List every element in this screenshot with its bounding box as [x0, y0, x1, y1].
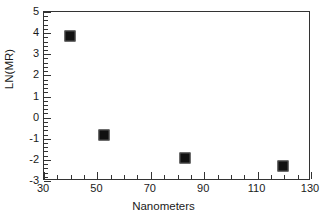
- y-tick-minor: [44, 122, 48, 123]
- x-tick-minor: [271, 175, 272, 179]
- x-tick-minor: [298, 175, 299, 179]
- y-tick-major: [44, 75, 51, 76]
- y-tick-minor: [44, 58, 48, 59]
- y-tick-minor: [44, 46, 48, 47]
- chart-figure: 30507090110130 -3-2-1012345 Nanometers L…: [0, 0, 327, 221]
- y-tick-minor: [44, 25, 48, 26]
- y-tick-label: -1: [29, 132, 39, 143]
- y-tick-label: 3: [33, 48, 39, 59]
- y-tick-major: [44, 97, 51, 98]
- y-tick-minor: [44, 88, 48, 89]
- y-tick-major: [44, 33, 51, 34]
- x-tick-minor: [137, 175, 138, 179]
- y-tick-minor: [44, 29, 48, 30]
- x-tick-major: [97, 172, 98, 179]
- y-tick-minor: [44, 20, 48, 21]
- data-point-marker: [64, 31, 75, 42]
- x-axis-title: Nanometers: [0, 200, 327, 212]
- y-tick-minor: [44, 126, 48, 127]
- y-tick-major: [44, 54, 51, 55]
- x-tick-minor: [84, 175, 85, 179]
- x-tick-label: 90: [197, 183, 209, 194]
- y-tick-major: [44, 118, 51, 119]
- x-tick-major: [151, 172, 152, 179]
- y-tick-minor: [44, 80, 48, 81]
- plot-frame: [43, 11, 310, 180]
- y-tick-label: 4: [33, 27, 39, 38]
- y-tick-minor: [44, 177, 48, 178]
- x-tick-minor: [164, 175, 165, 179]
- y-tick-minor: [44, 173, 48, 174]
- y-tick-major: [44, 139, 51, 140]
- x-tick-major: [258, 172, 259, 179]
- y-tick-minor: [44, 135, 48, 136]
- data-point-marker: [99, 129, 110, 140]
- y-tick-minor: [44, 92, 48, 93]
- x-tick-label: 130: [301, 183, 319, 194]
- y-tick-minor: [44, 156, 48, 157]
- x-tick-label: 110: [248, 183, 266, 194]
- x-tick-minor: [111, 175, 112, 179]
- x-tick-minor: [218, 175, 219, 179]
- y-tick-minor: [44, 84, 48, 85]
- y-tick-minor: [44, 105, 48, 106]
- data-point-marker: [179, 152, 190, 163]
- data-point-marker: [278, 161, 289, 172]
- x-tick-minor: [124, 175, 125, 179]
- y-tick-minor: [44, 113, 48, 114]
- y-tick-major: [44, 12, 51, 13]
- x-tick-minor: [244, 175, 245, 179]
- x-tick-minor: [231, 175, 232, 179]
- y-tick-label: 2: [33, 69, 39, 80]
- y-tick-label: 0: [33, 111, 39, 122]
- y-tick-minor: [44, 71, 48, 72]
- y-tick-label: -3: [29, 175, 39, 186]
- x-tick-minor: [57, 175, 58, 179]
- y-tick-minor: [44, 42, 48, 43]
- y-tick-minor: [44, 67, 48, 68]
- y-tick-minor: [44, 16, 48, 17]
- y-tick-minor: [44, 63, 48, 64]
- y-tick-major: [44, 160, 51, 161]
- y-axis-title: LN(MR): [3, 34, 15, 104]
- x-tick-minor: [191, 175, 192, 179]
- y-tick-label: 1: [33, 90, 39, 101]
- y-tick-minor: [44, 109, 48, 110]
- plot-area: [44, 12, 309, 179]
- y-tick-minor: [44, 151, 48, 152]
- y-tick-label: -2: [29, 153, 39, 164]
- y-tick-minor: [44, 37, 48, 38]
- x-tick-major: [311, 172, 312, 179]
- y-tick-minor: [44, 168, 48, 169]
- y-tick-label: 5: [33, 6, 39, 17]
- y-tick-minor: [44, 50, 48, 51]
- y-tick-minor: [44, 147, 48, 148]
- x-tick-label: 70: [144, 183, 156, 194]
- x-tick-minor: [284, 175, 285, 179]
- x-tick-label: 50: [90, 183, 102, 194]
- x-tick-minor: [178, 175, 179, 179]
- y-tick-minor: [44, 101, 48, 102]
- y-tick-minor: [44, 130, 48, 131]
- x-tick-minor: [71, 175, 72, 179]
- x-tick-major: [204, 172, 205, 179]
- y-tick-minor: [44, 164, 48, 165]
- y-tick-minor: [44, 143, 48, 144]
